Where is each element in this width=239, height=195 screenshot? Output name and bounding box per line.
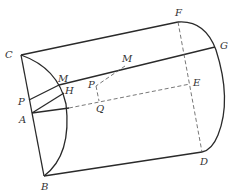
segment-CF xyxy=(21,22,178,55)
label-P-mid: P xyxy=(88,80,95,90)
segment-PM xyxy=(29,85,59,100)
segment-BD xyxy=(44,152,202,176)
label-C: C xyxy=(5,50,13,60)
label-H: H xyxy=(65,86,74,96)
label-D: D xyxy=(200,157,208,167)
label-A: A xyxy=(19,115,26,125)
half-cylinder-diagram: C M P H A B M P Q F G E D xyxy=(0,0,239,195)
label-P-left: P xyxy=(18,97,25,107)
label-Q: Q xyxy=(96,104,104,114)
segment-MG xyxy=(59,47,215,85)
right-end-arc xyxy=(178,22,225,152)
segment-MP-hidden xyxy=(96,66,125,86)
label-B: B xyxy=(41,182,48,192)
segment-PQ-hidden xyxy=(96,86,99,101)
label-E: E xyxy=(193,78,200,88)
segment-A-arc xyxy=(32,108,69,113)
label-M-right: M xyxy=(122,54,132,64)
label-F: F xyxy=(175,8,182,18)
label-M-left: M xyxy=(58,74,68,84)
label-G: G xyxy=(220,41,228,51)
